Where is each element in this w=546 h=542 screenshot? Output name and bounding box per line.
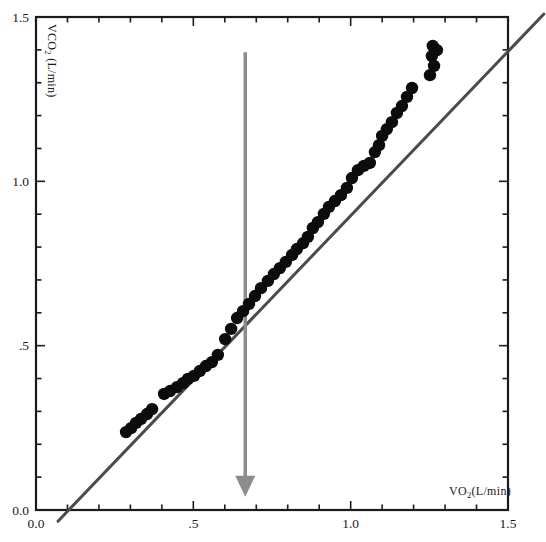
x-axis-label-text: VO — [449, 484, 467, 498]
data-point — [406, 82, 418, 94]
threshold-arrow-head — [235, 476, 255, 497]
y-tick-label: 1.0 — [12, 174, 29, 189]
plot-frame — [36, 17, 508, 510]
data-point — [146, 403, 158, 415]
x-axis-label-units: (L/min) — [472, 484, 511, 498]
x-tick-label: 1.0 — [342, 516, 359, 531]
y-axis-label-units: (L/min) — [45, 55, 59, 98]
x-tick-label: 1.5 — [500, 516, 517, 531]
vslope-chart: 0.0.51.01.50.0.51.01.5 VCO2 (L/min) VO2(… — [0, 0, 546, 542]
data-point — [427, 40, 439, 52]
x-axis-label: VO2(L/min) — [449, 484, 511, 500]
y-tick-label: .5 — [19, 338, 29, 353]
y-axis-label-text: VCO — [45, 24, 59, 50]
y-tick-label: 1.5 — [12, 10, 29, 25]
data-point — [364, 157, 376, 169]
x-tick-label: .5 — [188, 516, 198, 531]
data-point — [225, 323, 237, 335]
identity-line — [58, 14, 544, 521]
y-tick-label: 0.0 — [12, 503, 29, 518]
x-tick-label: 0.0 — [28, 516, 45, 531]
y-axis-label: VCO2 (L/min) — [43, 24, 59, 98]
data-point — [212, 349, 224, 361]
plot-canvas: 0.0.51.01.50.0.51.01.5 — [0, 0, 546, 542]
